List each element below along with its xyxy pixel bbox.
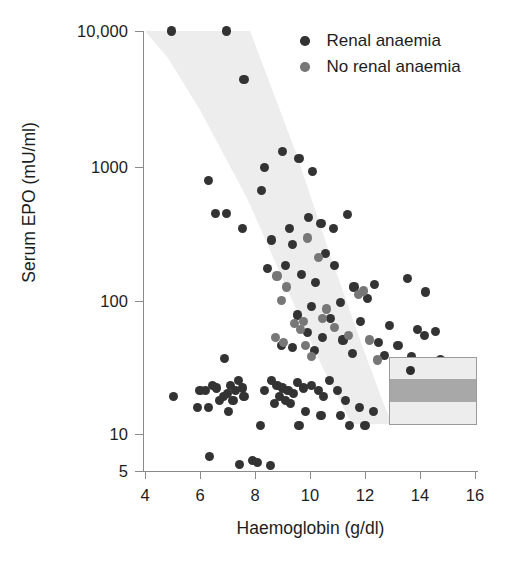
data-point-norenal xyxy=(314,253,323,262)
data-point-renal xyxy=(266,461,275,470)
data-point-renal xyxy=(260,386,269,395)
data-point-norenal xyxy=(272,271,281,280)
data-point-renal xyxy=(169,392,178,401)
data-point-renal xyxy=(238,224,247,233)
data-point-renal xyxy=(369,407,378,416)
data-point-norenal xyxy=(277,296,286,305)
data-point-renal xyxy=(289,389,298,398)
data-point-renal xyxy=(336,298,345,307)
y-axis-line xyxy=(143,31,144,472)
data-point-renal xyxy=(316,411,325,420)
data-point-renal xyxy=(220,354,229,363)
y-tick-10000 xyxy=(135,31,143,32)
data-point-norenal xyxy=(279,338,288,347)
data-point-renal xyxy=(333,386,342,395)
data-point-norenal xyxy=(299,317,308,326)
x-tick-label-6: 6 xyxy=(180,486,220,505)
data-point-renal xyxy=(403,274,412,283)
data-point-renal xyxy=(420,331,429,340)
x-tick-label-14: 14 xyxy=(400,486,440,505)
data-point-renal xyxy=(224,407,233,416)
data-point-renal xyxy=(319,392,328,401)
y-tick-1000 xyxy=(135,167,143,168)
data-point-renal xyxy=(204,176,213,185)
data-point-renal xyxy=(260,163,269,172)
data-point-renal xyxy=(215,396,224,405)
data-point-renal xyxy=(270,399,279,408)
data-point-renal xyxy=(288,343,297,352)
data-point-norenal xyxy=(307,352,316,361)
x-tick-12 xyxy=(365,471,366,479)
y-axis-title: Serum EPO (mU/ml) xyxy=(19,78,40,328)
y-tick-100 xyxy=(135,301,143,302)
data-point-renal xyxy=(421,287,430,296)
data-point-renal xyxy=(167,26,176,35)
data-point-renal xyxy=(431,327,440,336)
x-axis-title: Haemoglobin (g/dl) xyxy=(143,518,478,539)
data-point-norenal xyxy=(301,341,310,350)
legend-item-renal-anaemia: Renal anaemia xyxy=(300,28,461,54)
data-point-renal xyxy=(311,278,320,287)
data-point-renal xyxy=(308,167,317,176)
data-point-renal xyxy=(239,75,248,84)
data-point-renal xyxy=(325,376,334,385)
data-point-renal xyxy=(355,403,364,412)
data-point-renal xyxy=(343,210,352,219)
data-point-renal xyxy=(294,421,303,430)
x-tick-4 xyxy=(145,471,146,479)
data-point-norenal xyxy=(322,304,331,313)
data-point-norenal xyxy=(344,331,353,340)
data-point-renal xyxy=(316,219,325,228)
data-point-renal xyxy=(204,403,213,412)
data-point-norenal xyxy=(282,282,291,291)
data-point-renal xyxy=(345,421,354,430)
x-tick-label-10: 10 xyxy=(290,486,330,505)
data-point-renal xyxy=(385,321,394,330)
data-point-renal xyxy=(238,383,247,392)
x-tick-10 xyxy=(310,471,311,479)
data-point-renal xyxy=(248,456,257,465)
data-point-renal xyxy=(205,452,214,461)
data-point-renal xyxy=(393,341,402,350)
data-point-renal xyxy=(304,213,313,222)
data-point-renal xyxy=(222,209,231,218)
x-tick-16 xyxy=(475,471,476,479)
inset-reference-box xyxy=(389,357,477,425)
data-point-norenal xyxy=(365,335,374,344)
y-tick-label-10: 10 xyxy=(8,425,128,444)
legend-marker-icon-renal xyxy=(300,36,310,46)
data-point-renal xyxy=(301,407,310,416)
data-point-renal xyxy=(278,147,287,156)
inset-reference-band xyxy=(390,379,476,402)
data-point-norenal xyxy=(318,314,327,323)
x-tick-6 xyxy=(200,471,201,479)
data-point-renal xyxy=(307,302,316,311)
data-point-renal xyxy=(222,26,231,35)
data-point-renal xyxy=(286,399,295,408)
x-tick-14 xyxy=(420,471,421,479)
data-point-renal xyxy=(370,280,379,289)
y-tick-label-10000: 10,000 xyxy=(8,22,128,41)
data-point-renal xyxy=(294,154,303,163)
data-point-renal xyxy=(263,264,272,273)
legend-label-renal: Renal anaemia xyxy=(327,31,441,51)
y-tick-10 xyxy=(135,434,143,435)
data-point-renal xyxy=(239,392,248,401)
legend: Renal anaemia No renal anaemia xyxy=(300,28,461,80)
inset-data-point xyxy=(406,366,415,375)
data-point-renal xyxy=(356,317,365,326)
x-tick-label-8: 8 xyxy=(235,486,275,505)
data-point-renal xyxy=(297,270,306,279)
data-point-norenal xyxy=(373,355,382,364)
data-point-renal xyxy=(360,421,369,430)
data-point-renal xyxy=(228,396,237,405)
data-point-renal xyxy=(348,349,357,358)
x-tick-label-4: 4 xyxy=(125,486,165,505)
x-tick-label-12: 12 xyxy=(345,486,385,505)
data-point-renal xyxy=(256,421,265,430)
data-point-renal xyxy=(336,411,345,420)
data-point-renal xyxy=(285,224,294,233)
data-point-renal xyxy=(235,460,244,469)
data-point-renal xyxy=(330,261,339,270)
x-tick-8 xyxy=(255,471,256,479)
